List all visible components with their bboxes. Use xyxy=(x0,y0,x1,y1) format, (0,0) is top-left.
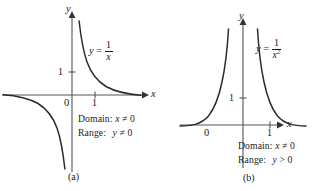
domain-relation-b: ≠ 0 xyxy=(282,140,295,151)
range-variable-b: y xyxy=(273,154,277,165)
range-line-a: Range: y ≠ 0 xyxy=(78,128,132,138)
x-tick-label-one-a: 1 xyxy=(92,98,97,108)
caption-a: (a) xyxy=(68,172,79,182)
x-axis-arrowhead-b xyxy=(277,122,284,129)
equation-b-fraction: 1 x2 xyxy=(272,38,282,60)
equation-b-denominator: x2 xyxy=(272,50,282,61)
y-tick-label-one-b: 1 xyxy=(229,93,234,103)
domain-label-b: Domain: xyxy=(238,140,273,151)
graph-a-canvas xyxy=(0,0,160,191)
panel-b: y x 0 1 1 y = 1 x2 Domain: x ≠ 0 Range: … xyxy=(160,0,321,191)
figure-container: y x 0 1 1 y = 1 x Domain: x ≠ 0 Range: y… xyxy=(0,0,321,191)
y-axis-label-b: y xyxy=(239,11,244,22)
range-line-b: Range: y > 0 xyxy=(238,155,293,165)
equation-a-fraction: 1 x xyxy=(105,40,113,62)
equation-b: y = 1 x2 xyxy=(256,38,281,60)
panel-a: y x 0 1 1 y = 1 x Domain: x ≠ 0 Range: y… xyxy=(0,0,160,191)
curve-b-left-branch xyxy=(180,29,229,126)
domain-line-b: Domain: x ≠ 0 xyxy=(238,141,295,151)
range-label-a: Range: xyxy=(78,127,106,138)
y-axis-label-a: y xyxy=(66,4,71,15)
domain-variable-a: x xyxy=(115,113,119,124)
range-relation-a: ≠ 0 xyxy=(120,127,133,138)
equation-a-numerator: 1 xyxy=(105,40,112,51)
range-label-b: Range: xyxy=(238,154,266,165)
origin-label-a: 0 xyxy=(64,98,69,109)
curve-a-left-branch xyxy=(3,95,65,169)
caption-b: (b) xyxy=(243,173,255,183)
equation-a-denominator: x xyxy=(105,52,111,63)
equation-b-lhs: y xyxy=(256,44,261,55)
equation-b-equals: = xyxy=(263,44,269,55)
equation-a: y = 1 x xyxy=(89,40,113,62)
y-tick-label-one-a: 1 xyxy=(58,67,63,77)
origin-label-b: 0 xyxy=(204,128,209,139)
range-relation-b: > 0 xyxy=(280,154,293,165)
equation-a-lhs: y xyxy=(89,46,94,57)
x-axis-label-a: x xyxy=(151,89,156,100)
range-variable-a: y xyxy=(113,127,117,138)
x-tick-label-one-b: 1 xyxy=(267,128,272,138)
domain-relation-a: ≠ 0 xyxy=(122,113,135,124)
domain-label-a: Domain: xyxy=(78,113,113,124)
equation-b-denominator-exponent: 2 xyxy=(277,48,280,55)
x-axis-arrowhead-a xyxy=(142,92,149,99)
x-axis-label-b: x xyxy=(287,119,292,130)
domain-variable-b: x xyxy=(275,140,279,151)
equation-a-equals: = xyxy=(96,46,102,57)
domain-line-a: Domain: x ≠ 0 xyxy=(78,114,135,124)
